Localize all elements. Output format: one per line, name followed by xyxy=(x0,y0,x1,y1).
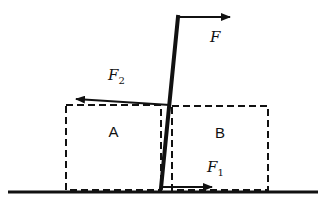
block-a xyxy=(66,105,161,190)
force-diagram: A B F F2 F1 xyxy=(0,0,326,202)
force-f1-label: F1 xyxy=(206,158,224,178)
block-b-label: B xyxy=(215,124,225,141)
force-f2-label: F2 xyxy=(107,66,125,86)
force-f-label: F xyxy=(209,28,221,46)
block-a-label: A xyxy=(108,123,118,140)
rod xyxy=(161,17,178,188)
